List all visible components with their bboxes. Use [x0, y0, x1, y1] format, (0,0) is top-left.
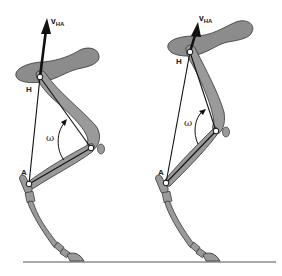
right-limb: vHA H A ω — [155, 13, 252, 261]
arrowhead-right-icon — [191, 22, 201, 37]
angle-label-right: ω — [184, 117, 192, 128]
knee-joint-left — [88, 145, 94, 151]
angle-label-left: ω — [46, 132, 54, 143]
arrowhead-left-icon — [41, 18, 51, 34]
hoof-left — [67, 253, 84, 261]
hip-joint-left — [37, 74, 43, 80]
pelvis-right — [168, 21, 253, 56]
ankle-joint-right — [163, 180, 169, 186]
hip-label-left: H — [26, 85, 32, 94]
hip-label-right: H — [176, 57, 182, 66]
cannon-right — [165, 201, 194, 247]
angle-arc-left — [58, 122, 65, 160]
cannon-left — [28, 201, 58, 247]
left-limb: vHA H A ω — [16, 16, 105, 261]
limb-diagram: vHA H A ω vHA — [0, 0, 282, 276]
velocity-label-left: vHA — [51, 16, 65, 27]
knee-ankle-line-right — [166, 131, 216, 183]
ankle-label-left: A — [21, 168, 27, 177]
velocity-label-right: vHA — [199, 13, 213, 24]
hip-joint-right — [187, 49, 193, 55]
patella-left — [98, 144, 105, 154]
arc-arrowhead-left-icon — [61, 119, 67, 126]
hoof-right — [203, 253, 220, 261]
patella-right — [223, 127, 230, 137]
knee-joint-right — [213, 128, 219, 134]
angle-arc-right — [195, 111, 203, 144]
ankle-label-right: A — [158, 168, 164, 177]
pelvis-left — [16, 48, 99, 83]
ankle-joint-left — [26, 181, 32, 187]
